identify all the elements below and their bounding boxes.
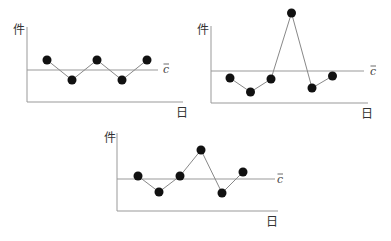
control-chart-1: 件日c (13, 23, 188, 120)
data-point (93, 56, 102, 65)
data-line (230, 13, 333, 92)
x-axis-label: 日 (361, 107, 373, 121)
control-chart-2: 件日c (197, 9, 376, 122)
data-point (68, 76, 77, 85)
control-charts: 件日c件日c件日c (0, 0, 391, 241)
data-point (155, 188, 164, 197)
y-axis-label: 件 (13, 23, 25, 37)
data-point (43, 56, 52, 65)
y-axis-label: 件 (104, 131, 116, 145)
x-axis-label: 日 (176, 106, 188, 120)
center-line-label: c (277, 173, 283, 186)
data-line (138, 150, 243, 193)
data-point (239, 168, 248, 177)
control-chart-3: 件日c (104, 131, 283, 229)
y-axis-label: 件 (197, 23, 209, 37)
center-line-label: c (370, 65, 376, 78)
data-point (246, 88, 255, 97)
data-point (134, 172, 143, 181)
x-axis-label: 日 (266, 215, 278, 229)
data-point (287, 9, 296, 18)
center-line-label: c (163, 63, 169, 76)
data-point (176, 172, 185, 181)
data-point (143, 56, 152, 65)
data-point (308, 84, 317, 93)
data-point (218, 189, 227, 198)
data-point (226, 74, 235, 83)
data-point (197, 146, 206, 155)
data-point (267, 75, 276, 84)
data-point (328, 72, 337, 81)
data-point (118, 76, 127, 85)
